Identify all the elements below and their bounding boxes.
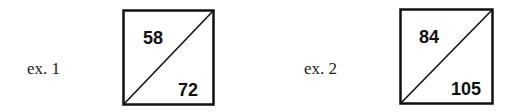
example-1-bottom-value: 72 xyxy=(178,80,198,100)
example-2-bottom-value: 105 xyxy=(451,79,481,99)
example-2-top-value: 84 xyxy=(419,27,439,47)
example-2-label: ex. 2 xyxy=(304,59,337,79)
example-1-diagram: 58 72 xyxy=(122,9,216,107)
example-1-label: ex. 1 xyxy=(27,59,60,79)
example-2-diagram: 84 105 xyxy=(399,8,495,106)
example-1-top-value: 58 xyxy=(143,28,163,48)
